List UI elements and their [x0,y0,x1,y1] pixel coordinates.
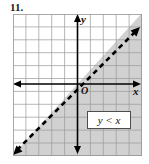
inequality-label-box: y < x [87,111,131,129]
problem-number: 11. [10,1,23,13]
coordinate-graph-svg [13,14,142,156]
inequality-text: y < x [98,114,121,126]
coordinate-graph [13,14,142,156]
origin-label: O [81,85,88,96]
x-axis-label: x [133,86,139,97]
inequality-graph-figure: 11. [0,0,149,164]
y-axis-label: y [81,14,86,25]
